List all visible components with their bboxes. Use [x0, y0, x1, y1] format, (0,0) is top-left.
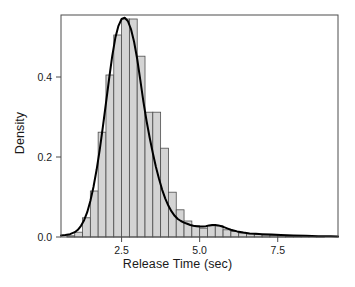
- y-axis-ticks: 0.00.20.4: [37, 71, 61, 243]
- y-axis-title: Density: [13, 73, 27, 193]
- density-histogram-figure: 2.55.07.5 0.00.20.4 Release Time (sec) D…: [0, 0, 355, 287]
- histogram-bar: [122, 19, 130, 237]
- histogram-bar: [192, 226, 200, 237]
- x-tick-label: 2.5: [114, 244, 129, 256]
- histogram-bar: [75, 232, 83, 237]
- plot-canvas: 2.55.07.5 0.00.20.4: [0, 0, 355, 287]
- x-tick-label: 5.0: [192, 244, 207, 256]
- y-tick-label: 0.4: [37, 71, 52, 83]
- histogram-bar: [207, 226, 215, 237]
- histogram-bar: [114, 35, 122, 237]
- histogram-bar: [168, 192, 176, 237]
- histogram-bar: [223, 230, 231, 237]
- histogram-bar: [215, 226, 223, 237]
- y-tick-label: 0.2: [37, 151, 52, 163]
- y-tick-label: 0.0: [37, 231, 52, 243]
- x-axis-ticks: 2.55.07.5: [114, 237, 285, 256]
- histogram-bar: [161, 148, 169, 237]
- histogram-bar: [153, 112, 161, 237]
- histogram-bar: [176, 210, 184, 237]
- histogram-bars: [67, 19, 325, 237]
- x-axis-title: Release Time (sec): [0, 257, 355, 271]
- x-tick-label: 7.5: [270, 244, 285, 256]
- histogram-bar: [200, 228, 208, 237]
